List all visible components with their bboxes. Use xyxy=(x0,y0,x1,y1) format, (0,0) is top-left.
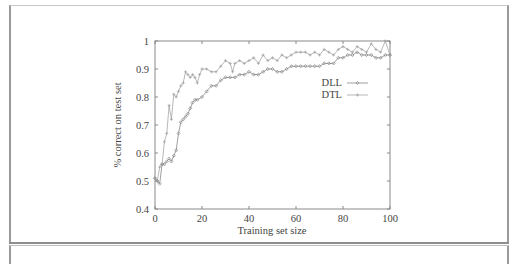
data-series xyxy=(153,39,391,185)
y-tick-label: 0.5 xyxy=(136,176,149,187)
x-tick-label: 40 xyxy=(244,213,255,224)
y-tick-label: 0.9 xyxy=(136,64,149,75)
plus-marker-icon xyxy=(356,93,359,96)
y-axis-title: % correct on test set xyxy=(112,82,123,167)
plot-border xyxy=(155,41,390,209)
legend-label-dll: DLL xyxy=(322,77,342,88)
legend: DLL DTL xyxy=(322,77,368,100)
y-tick-label: 0.6 xyxy=(136,148,149,159)
x-tick-label: 0 xyxy=(152,213,157,224)
x-tick-label: 100 xyxy=(382,213,398,224)
y-tick-label: 0.7 xyxy=(136,120,149,131)
y-tick-label: 0.8 xyxy=(136,92,149,103)
y-tick-label: 0.4 xyxy=(136,204,150,215)
x-tick-label: 80 xyxy=(338,213,349,224)
line-chart: 0204060801000.40.50.60.70.80.91 DLL DTL … xyxy=(0,0,517,264)
x-tick-label: 60 xyxy=(291,213,302,224)
series-dll xyxy=(153,51,391,186)
axis-ticks: 0204060801000.40.50.60.70.80.91 xyxy=(136,36,398,225)
x-tick-label: 20 xyxy=(197,213,208,224)
plot-area xyxy=(155,41,390,209)
y-tick-label: 1 xyxy=(144,36,149,47)
legend-label-dtl: DTL xyxy=(322,89,342,100)
x-axis-title: Training set size xyxy=(237,225,306,236)
